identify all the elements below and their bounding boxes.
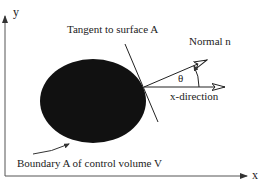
- boundary-label: Boundary A of control volume V: [17, 157, 162, 169]
- tangent-label: Tangent to surface A: [67, 23, 158, 35]
- control-volume-body: [40, 59, 146, 143]
- x-axis-label: x: [252, 168, 258, 181]
- boundary-pointer-arrow: [33, 144, 69, 154]
- theta-arc: [194, 66, 199, 87]
- normal-label: Normal n: [189, 35, 231, 47]
- x-direction-label: x-direction: [170, 90, 219, 102]
- theta-label: θ: [178, 72, 183, 84]
- y-axis-label: y: [13, 5, 19, 19]
- control-volume-diagram: y x Tangent to surface A Normal n x-dire…: [0, 0, 267, 181]
